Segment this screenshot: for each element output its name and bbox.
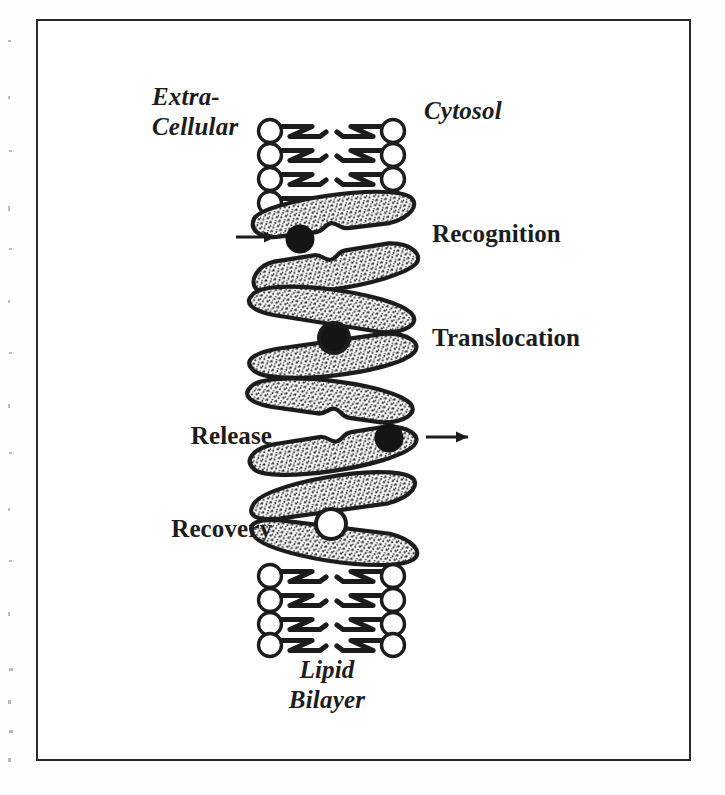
substrate-ball-recovery-empty xyxy=(316,509,346,539)
lipid-bilayer-bottom xyxy=(259,565,405,657)
carrier-stage-translocation xyxy=(247,277,419,387)
substrate-ball-recognition xyxy=(287,226,314,253)
label-recovery: Recovery xyxy=(133,514,272,544)
figure-root: Extra- Cellular Cytosol Recognition Tran… xyxy=(0,0,725,795)
label-release: Release xyxy=(152,421,272,451)
label-recognition: Recognition xyxy=(432,219,561,249)
carrier-stage-recovery xyxy=(248,465,419,572)
label-extracellular-line2: Cellular xyxy=(152,112,238,142)
substrate-ball-release xyxy=(376,425,403,452)
carrier-stage-release xyxy=(246,369,468,483)
arrow-outbound-release xyxy=(426,432,468,443)
label-lipid-bilayer-line1: Lipid xyxy=(262,655,392,685)
label-extracellular: Extra- Cellular xyxy=(152,82,238,141)
substrate-ball-translocation xyxy=(319,323,349,353)
label-translocation: Translocation xyxy=(432,323,580,353)
label-extracellular-line1: Extra- xyxy=(152,82,238,112)
label-lipid-bilayer-line2: Bilayer xyxy=(262,685,392,715)
label-lipid-bilayer: Lipid Bilayer xyxy=(262,655,392,714)
label-cytosol: Cytosol xyxy=(424,96,502,126)
